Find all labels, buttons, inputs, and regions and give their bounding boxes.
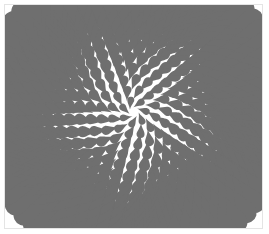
teardrop-shape — [119, 113, 133, 122]
teardrop-shape — [136, 105, 150, 116]
teardrop-shape — [136, 123, 145, 138]
teardrop-shape — [143, 129, 155, 147]
pattern-frame — [4, 4, 263, 229]
teardrop-pattern — [5, 5, 262, 228]
teardrop-shape — [126, 97, 134, 110]
